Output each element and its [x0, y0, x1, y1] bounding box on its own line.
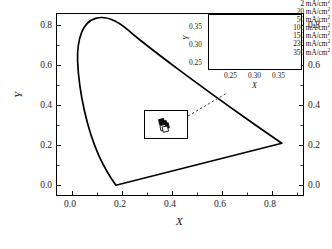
legend-label-3: 100 mA/cm: [293, 25, 327, 33]
inset-yaxis-title: Y: [182, 36, 191, 40]
main-xtick-0.0: 0.0: [64, 200, 76, 210]
main-ytick-0.6: 0.6: [28, 61, 52, 71]
main-ytick-0.8: 0.8: [28, 21, 52, 31]
legend-label-5: 230 mA/cm: [293, 41, 327, 49]
main-ytick-0.2: 0.2: [28, 141, 52, 151]
figure-root: 0.8 0.6 0.4 0.2 0.0 0.8 0.6 0.4 0.2 0.0 …: [0, 0, 332, 249]
legend-item-6: 350 mA/cm2: [293, 50, 330, 58]
legend-exp-1: 2: [327, 6, 330, 12]
legend-label-2: 50 mA/cm: [297, 17, 328, 25]
legend-exp-5: 2: [327, 38, 330, 44]
main-xtick-0.2: 0.2: [114, 200, 126, 210]
main-ytick-right-0.2: 0.2: [308, 141, 320, 151]
legend-exp-0: 2: [327, 0, 330, 4]
main-ytick-right-0.4: 0.4: [308, 101, 320, 111]
main-xtick-0.6: 0.6: [214, 200, 226, 210]
main-xaxis-title: X: [176, 215, 183, 227]
legend-label-1: 20 mA/cm: [297, 8, 328, 16]
main-yaxis-title: Y: [12, 92, 24, 98]
inset-xtick-0.25: 0.25: [224, 72, 237, 79]
inset-legend: 2 mA/cm2 20 mA/cm2 50 mA/cm2 100 mA/cm2 …: [293, 1, 330, 58]
zoom-region-box: [144, 110, 188, 139]
legend-exp-6: 2: [327, 47, 330, 53]
inset-ytick-0.30: 0.30: [189, 41, 202, 48]
inset-ytick-0.25: 0.25: [189, 59, 202, 66]
main-xtick-0.8: 0.8: [264, 200, 276, 210]
inset-ytick-0.35: 0.35: [189, 23, 202, 30]
inset-xtick-0.35: 0.35: [272, 72, 285, 79]
main-ytick-right-0.0: 0.0: [308, 181, 320, 191]
legend-label-6: 350 mA/cm: [293, 49, 327, 57]
legend-exp-3: 2: [327, 22, 330, 28]
main-ytick-right-0.6: 0.6: [308, 61, 320, 71]
main-ytick-0.0: 0.0: [28, 181, 52, 191]
inset-xaxis-title: X: [252, 81, 257, 90]
inset-plot-frame: [208, 14, 302, 70]
main-xtick-0.4: 0.4: [164, 200, 176, 210]
inset-xtick-0.30: 0.30: [248, 72, 261, 79]
legend-exp-4: 2: [327, 30, 330, 36]
main-ytick-0.4: 0.4: [28, 101, 52, 111]
legend-exp-2: 2: [327, 14, 330, 20]
legend-label-4: 150 mA/cm: [293, 33, 327, 41]
